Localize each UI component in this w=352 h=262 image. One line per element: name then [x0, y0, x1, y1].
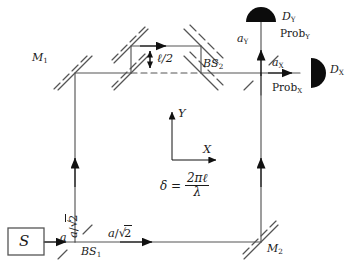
beamsplitter-1-label-sub: 1 [97, 250, 102, 259]
mirror-1-label-sub: 1 [43, 56, 48, 65]
prob-y-label-sub: Y [305, 33, 310, 41]
mirror-1-label-text: M [32, 51, 43, 64]
prob-x-label: ProbX [272, 82, 302, 94]
mirror-1-label: M1 [32, 52, 48, 64]
mirror-2-label-sub: 2 [278, 247, 283, 256]
beamsplitter-2-label: BS2 [203, 58, 223, 70]
detector-x-label-sub: X [339, 68, 344, 77]
source-label: S [19, 234, 29, 249]
amplitude-x-label: aX [272, 57, 284, 69]
phase-equation-lhs: δ [160, 179, 167, 193]
mirror-2-label-text: M [267, 242, 278, 255]
amplitude-y-label-sub: Y [244, 37, 249, 46]
beamsplitter-1-label: BS1 [81, 246, 101, 258]
phase-equation-fraction: 2πℓ λ [185, 172, 210, 200]
beamsplitter-2-label-text: BS [203, 57, 219, 70]
amplitude-y-label: aY [237, 33, 248, 45]
detector-y-label-text: D [282, 10, 291, 23]
detector-y-glyph [246, 7, 276, 22]
phase-equation: δ = 2πℓ λ [160, 172, 209, 200]
amplitude-split-vertical-wrap: a/√2 a/√2 [68, 214, 80, 238]
detector-y-label-sub: Y [291, 15, 296, 24]
amplitude-split-vertical-label: a/√2 a/√2 [68, 214, 80, 238]
amplitude-x-label-sub: X [279, 61, 284, 70]
phase-equation-equals: = [171, 179, 181, 193]
beamsplitter-2-label-sub: 2 [219, 62, 224, 71]
phase-equation-numerator: 2πℓ [185, 172, 210, 186]
phase-equation-denominator: λ [185, 186, 210, 199]
prob-y-label: ProbY [280, 28, 310, 40]
path-offset-label: ℓ/2 [157, 53, 173, 65]
axis-x-label: X [203, 144, 211, 156]
prob-x-label-text: Prob [272, 81, 297, 93]
figure-canvas: S BS1 BS2 M1 M2 DY DX ProbY ProbX aY aX … [0, 0, 352, 262]
prob-x-label-sub: X [297, 87, 302, 95]
axis-y-label: Y [178, 108, 186, 120]
detector-x-glyph [311, 58, 326, 88]
detector-y-label: DY [282, 11, 296, 23]
beamsplitter-1-label-text: BS [81, 245, 97, 258]
detector-x-label: DX [330, 64, 344, 76]
mirror-2-label: M2 [267, 243, 283, 255]
prob-y-label-text: Prob [280, 27, 305, 39]
detour-mirror-upper-left-glyph [112, 27, 148, 63]
detector-x-label-text: D [330, 63, 339, 76]
amplitude-split-horizontal-label: a/√2 a/√2 [108, 228, 132, 240]
